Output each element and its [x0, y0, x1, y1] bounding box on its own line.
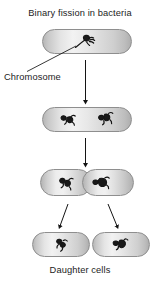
chromosome-icon [110, 236, 131, 254]
chromosome-icon [90, 174, 113, 192]
chromosome-icon [52, 236, 71, 254]
cell-stage-2-replicated [42, 107, 132, 132]
chromosome-label: Chromosome [4, 72, 61, 83]
daughter-cells-label: Daughter cells [0, 265, 160, 276]
arrow-to-daughter-right [108, 204, 117, 226]
diagram-title: Binary fission in bacteria [0, 8, 160, 19]
arrow-to-daughter-left [60, 204, 68, 226]
chromosome-icon [72, 33, 98, 51]
chromosome-icon [95, 110, 116, 128]
chromosome-icon [58, 111, 78, 128]
chromosome-icon [56, 174, 77, 192]
cell-stage-3-constricting [40, 169, 134, 196]
binary-fission-diagram: Binary fission in bacteria Chromosome [0, 0, 160, 285]
